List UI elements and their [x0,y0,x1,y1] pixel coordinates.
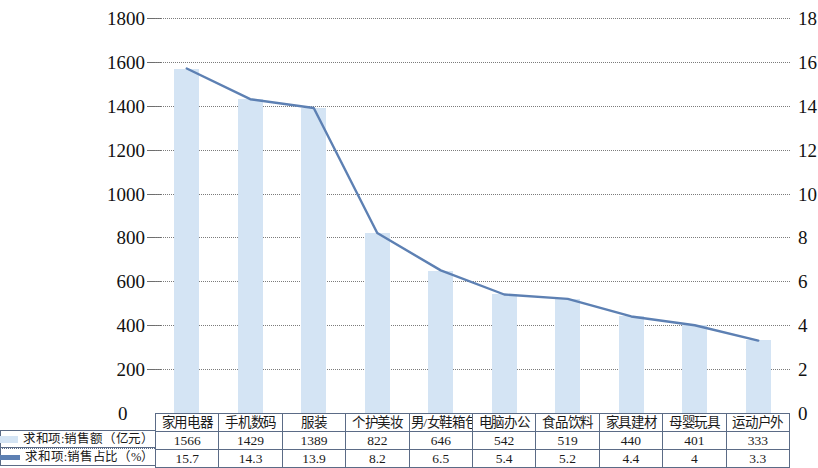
table-cell: 5.4 [472,450,535,468]
table-cell: 食品饮料 [536,414,599,432]
table-cell: 1429 [219,432,282,450]
table-cell: 13.9 [282,450,345,468]
table-cell: 333 [726,432,789,450]
left-axis-tick-label: 1600 [107,52,145,71]
table-cell: 家具建材 [599,414,662,432]
table-cell: 440 [599,432,662,450]
share-polyline [187,68,759,340]
table-cell: 401 [663,432,726,450]
right-percent-axis: 24681012141618 [798,18,818,413]
table-cell: 519 [536,432,599,450]
right-axis-tick-label: 8 [798,228,808,247]
left-axis-tick-label: 1200 [107,140,145,159]
right-axis-tick-label: 14 [798,96,817,115]
table-cell: 家用电器 [156,414,219,432]
data-table-wrapper: 家用电器手机数码服装个护美妆男/女鞋箱包电脑办公食品饮料家具建材母婴玩具运动户外… [0,413,818,468]
table-cell: 运动户外 [726,414,789,432]
sales-pareto-chart: 20040060080010001200140016001800 2468101… [0,0,818,468]
table-cell: 母婴玩具 [663,414,726,432]
table-cell: 服装 [282,414,345,432]
left-axis-tick-label: 600 [117,272,146,291]
line-series-share [155,18,790,413]
right-axis-tick-label: 2 [798,360,808,379]
plot-area [155,18,790,413]
table-cell: 646 [409,432,472,450]
table-cell: 822 [346,432,409,450]
left-axis-tick-label: 200 [117,360,146,379]
left-axis-tick-label: 1800 [107,9,145,28]
table-cell: 手机数码 [219,414,282,432]
table-cell: 男/女鞋箱包 [409,414,472,432]
left-axis-tick-label: 800 [117,228,146,247]
table-cell: 1389 [282,432,345,450]
left-value-axis: 20040060080010001200140016001800 [0,18,145,413]
right-axis-tick-label: 4 [798,316,808,335]
table-cell: 4.4 [599,450,662,468]
right-axis-tick-label: 10 [798,184,817,203]
right-axis-tick-label: 16 [798,52,817,71]
table-cell: 8.2 [346,450,409,468]
left-axis-tick-label: 1400 [107,96,145,115]
table-cell: 4 [663,450,726,468]
table-cell: 3.3 [726,450,789,468]
table-cell: 电脑办公 [472,414,535,432]
table-cell: 15.7 [156,450,219,468]
table-cell: 个护美妆 [346,414,409,432]
table-row: 156614291389822646542519440401333 [156,432,790,450]
table-cell: 1566 [156,432,219,450]
left-axis-tick-label: 400 [117,316,146,335]
table-cell: 6.5 [409,450,472,468]
left-axis-tick-label: 1000 [107,184,145,203]
right-axis-tick-label: 12 [798,140,817,159]
table-cell: 14.3 [219,450,282,468]
table-row: 家用电器手机数码服装个护美妆男/女鞋箱包电脑办公食品饮料家具建材母婴玩具运动户外 [156,414,790,432]
table-row: 15.714.313.98.26.55.45.24.443.3 [156,450,790,468]
chart-data-table: 家用电器手机数码服装个护美妆男/女鞋箱包电脑办公食品饮料家具建材母婴玩具运动户外… [155,413,790,468]
right-axis-tick-label: 6 [798,272,808,291]
table-cell: 542 [472,432,535,450]
right-axis-tick-label: 18 [798,9,817,28]
table-cell: 5.2 [536,450,599,468]
